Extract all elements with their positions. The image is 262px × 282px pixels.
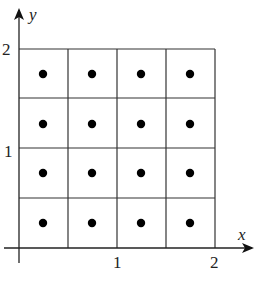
x-axis-label: x xyxy=(237,225,246,244)
x-tick-1: 1 xyxy=(113,253,122,272)
y-tick-1: 1 xyxy=(4,142,13,161)
x-tick-2: 2 xyxy=(210,253,219,272)
y-axis-label: y xyxy=(27,5,37,24)
grid-lines xyxy=(19,49,215,248)
y-tick-2: 2 xyxy=(2,40,11,59)
grid-diagram: y x 2 1 1 2 xyxy=(0,0,262,282)
